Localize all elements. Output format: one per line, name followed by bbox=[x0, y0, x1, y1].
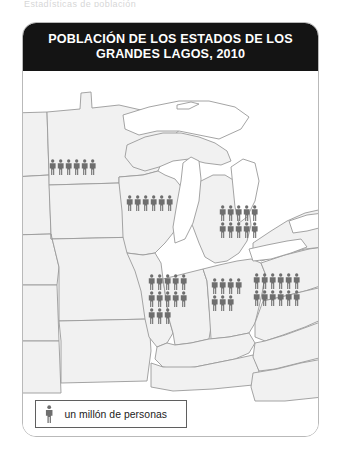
person-icon bbox=[261, 273, 268, 289]
person-icon bbox=[57, 159, 64, 175]
person-icon bbox=[164, 274, 171, 290]
person-icon bbox=[211, 278, 218, 294]
person-icon bbox=[219, 278, 226, 294]
pictogram-cluster-minnesota bbox=[49, 159, 98, 176]
person-icon bbox=[156, 274, 163, 290]
person-icon bbox=[166, 195, 173, 211]
person-icon bbox=[49, 159, 56, 175]
person-icon bbox=[219, 205, 226, 221]
person-icon bbox=[293, 273, 300, 289]
pictogram-cluster-indiana bbox=[211, 278, 243, 312]
map-legend: un millón de personas bbox=[35, 400, 187, 428]
person-icon bbox=[227, 205, 234, 221]
person-icon bbox=[277, 290, 284, 306]
person-icon bbox=[156, 308, 163, 324]
person-icon bbox=[227, 295, 234, 311]
person-icon bbox=[89, 159, 96, 175]
person-icon bbox=[81, 159, 88, 175]
pictogram-cluster-illinois bbox=[148, 274, 189, 326]
person-icon bbox=[285, 290, 292, 306]
state-arkansas bbox=[59, 319, 151, 383]
person-icon bbox=[150, 195, 157, 211]
person-icon bbox=[126, 195, 133, 211]
pictogram-cluster-wisconsin bbox=[126, 195, 175, 212]
person-icon bbox=[261, 290, 268, 306]
person-icon bbox=[235, 205, 242, 221]
person-icon bbox=[73, 159, 80, 175]
clipped-caption-sliver: Estadísticas de población bbox=[24, 0, 184, 7]
map-canvas: un millón de personas bbox=[23, 71, 319, 437]
person-icon bbox=[285, 273, 292, 289]
person-icon bbox=[134, 195, 141, 211]
person-icon bbox=[219, 295, 226, 311]
person-icon bbox=[65, 159, 72, 175]
person-icon bbox=[142, 195, 149, 211]
page-title-line-1: POBLACIÓN DE LOS ESTADOS DE LOS bbox=[48, 32, 292, 48]
person-icon bbox=[164, 308, 171, 324]
person-icon bbox=[227, 278, 234, 294]
person-icon bbox=[293, 290, 300, 306]
person-icon bbox=[235, 222, 242, 238]
person-icon bbox=[158, 195, 165, 211]
person-icon bbox=[243, 205, 250, 221]
person-icon bbox=[180, 274, 187, 290]
person-icon bbox=[251, 222, 258, 238]
state-kansas bbox=[23, 285, 59, 341]
person-icon bbox=[148, 291, 155, 307]
person-icon bbox=[180, 291, 187, 307]
person-icon bbox=[45, 405, 53, 423]
person-icon bbox=[156, 291, 163, 307]
person-icon bbox=[172, 274, 179, 290]
person-icon bbox=[253, 273, 260, 289]
person-icon bbox=[148, 308, 155, 324]
person-icon bbox=[277, 273, 284, 289]
figure-card: POBLACIÓN DE LOS ESTADOS DE LOS GRANDES … bbox=[22, 22, 319, 437]
person-icon bbox=[148, 274, 155, 290]
person-icon bbox=[269, 273, 276, 289]
state-michigan-upper-peninsula bbox=[125, 133, 231, 171]
person-icon bbox=[235, 278, 242, 294]
person-icon bbox=[243, 222, 250, 238]
state-north-dakota bbox=[23, 112, 49, 177]
state-oklahoma bbox=[23, 341, 61, 393]
page-title-line-2: GRANDES LAGOS, 2010 bbox=[96, 47, 245, 63]
state-south-dakota bbox=[23, 175, 51, 235]
great-lakes-region-map bbox=[23, 71, 319, 437]
figure-title-banner: POBLACIÓN DE LOS ESTADOS DE LOS GRANDES … bbox=[23, 23, 318, 71]
person-icon bbox=[253, 290, 260, 306]
person-icon bbox=[211, 295, 218, 311]
person-icon bbox=[172, 291, 179, 307]
person-icon bbox=[227, 222, 234, 238]
person-icon bbox=[164, 291, 171, 307]
legend-label: un millón de personas bbox=[64, 409, 167, 420]
pictogram-cluster-michigan bbox=[219, 205, 260, 239]
person-icon bbox=[269, 290, 276, 306]
person-icon bbox=[219, 222, 226, 238]
person-icon bbox=[251, 205, 258, 221]
pictogram-cluster-ohio bbox=[253, 273, 302, 307]
